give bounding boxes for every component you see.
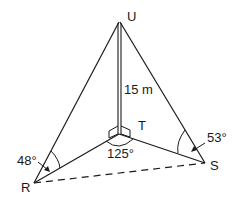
diagram-canvas: U 15 m T 125° 48° 53° R S <box>0 0 236 204</box>
angle-arc-S <box>178 130 185 153</box>
arrow-53-head <box>191 146 197 152</box>
point-label-U: U <box>127 10 136 23</box>
angle-arc-R <box>51 151 60 168</box>
point-label-S: S <box>210 159 219 172</box>
angle-label-53: 53° <box>207 131 227 144</box>
diagram-figure <box>0 0 236 204</box>
angle-label-125: 125° <box>107 147 134 160</box>
right-angle-mark-left <box>109 126 118 138</box>
point-label-R: R <box>21 181 30 194</box>
angle-label-48: 48° <box>17 154 37 167</box>
height-label: 15 m <box>124 83 153 96</box>
angle-arc-T <box>106 139 133 146</box>
point-label-T: T <box>138 119 146 132</box>
